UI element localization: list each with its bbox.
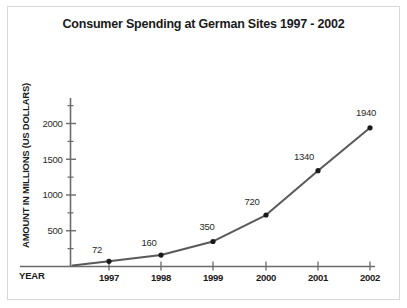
x-tick-label: 2002 <box>360 272 380 283</box>
data-point-label: 1940 <box>356 107 376 118</box>
y-tick-label: 1000 <box>43 189 63 200</box>
x-tick-label: 1997 <box>99 272 119 283</box>
data-point-marker <box>106 259 111 264</box>
x-tick-label: 1998 <box>151 272 171 283</box>
x-tick-label: 1999 <box>203 272 223 283</box>
data-point-marker <box>367 125 372 130</box>
data-point-label: 720 <box>245 196 260 207</box>
plot-area: 500100015002000 199719981999200020012002… <box>0 0 407 308</box>
chart-figure: Consumer Spending at German Sites 1997 -… <box>0 0 407 308</box>
y-tick-label: 500 <box>48 225 63 236</box>
data-point-label: 160 <box>142 237 157 248</box>
data-point-label: 1340 <box>294 151 314 162</box>
data-label-group: 7216035072013401940 <box>92 107 376 256</box>
x-tick-label: 2001 <box>308 272 329 283</box>
data-line <box>73 128 371 266</box>
data-point-label: 72 <box>92 244 102 255</box>
y-tick-label: 2000 <box>43 118 63 129</box>
x-tick-label: 2000 <box>256 272 276 283</box>
y-tick-label-group: 500100015002000 <box>43 118 63 236</box>
data-line-group <box>73 128 371 266</box>
data-point-marker <box>210 239 215 244</box>
y-tick-label: 1500 <box>43 154 63 165</box>
data-point-marker <box>263 212 268 217</box>
x-tick-label-group: 199719981999200020012002 <box>99 272 380 283</box>
data-point-marker <box>158 252 163 257</box>
data-point-label: 350 <box>200 221 215 232</box>
data-point-marker <box>315 168 320 173</box>
